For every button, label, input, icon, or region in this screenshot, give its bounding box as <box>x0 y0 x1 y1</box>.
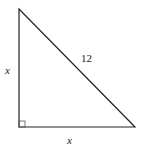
bottom-leg-label: x <box>66 134 72 146</box>
right-angle-marker <box>19 121 25 127</box>
triangle <box>19 9 135 127</box>
left-leg-label: x <box>4 64 10 76</box>
right-triangle-diagram: x 12 x <box>0 0 143 151</box>
hypotenuse-label: 12 <box>81 52 92 64</box>
